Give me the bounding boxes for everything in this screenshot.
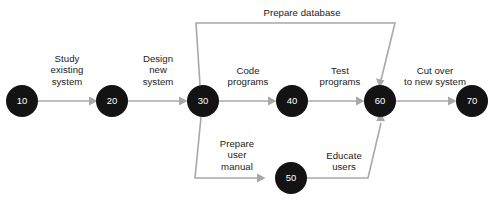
node-20[interactable]: 20	[96, 85, 128, 117]
node-10[interactable]: 10	[6, 85, 38, 117]
edge-label-code-programs: Code programs	[198, 65, 298, 88]
edge-label-test-programs: Test programs	[290, 65, 390, 88]
node-40[interactable]: 40	[276, 85, 308, 117]
node-label-10: 10	[17, 95, 28, 106]
node-70[interactable]: 70	[456, 85, 488, 117]
node-label-60: 60	[375, 95, 386, 106]
edge-30-40	[219, 97, 277, 106]
edge-40-60	[308, 97, 365, 106]
node-60[interactable]: 60	[364, 85, 396, 117]
edge-label-prepare-database: Prepare database	[242, 7, 362, 18]
node-30[interactable]: 30	[187, 85, 219, 117]
node-label-50: 50	[286, 172, 297, 183]
edge-60-70	[396, 97, 457, 106]
node-label-30: 30	[198, 95, 209, 106]
node-label-70: 70	[467, 95, 478, 106]
edge-label-cut-over-to-new-system: Cut over to new system	[380, 65, 490, 88]
pert-network-diagram: 10 20 30 40 50 60 70 Study existing syst…	[0, 0, 494, 201]
edge-label-prepare-user-manual: Prepare user manual	[187, 138, 287, 172]
edge-10-20	[38, 97, 98, 106]
node-label-40: 40	[287, 95, 298, 106]
edge-20-30	[128, 97, 188, 106]
node-label-20: 20	[107, 95, 118, 106]
edge-label-educate-users: Educate users	[294, 150, 394, 173]
